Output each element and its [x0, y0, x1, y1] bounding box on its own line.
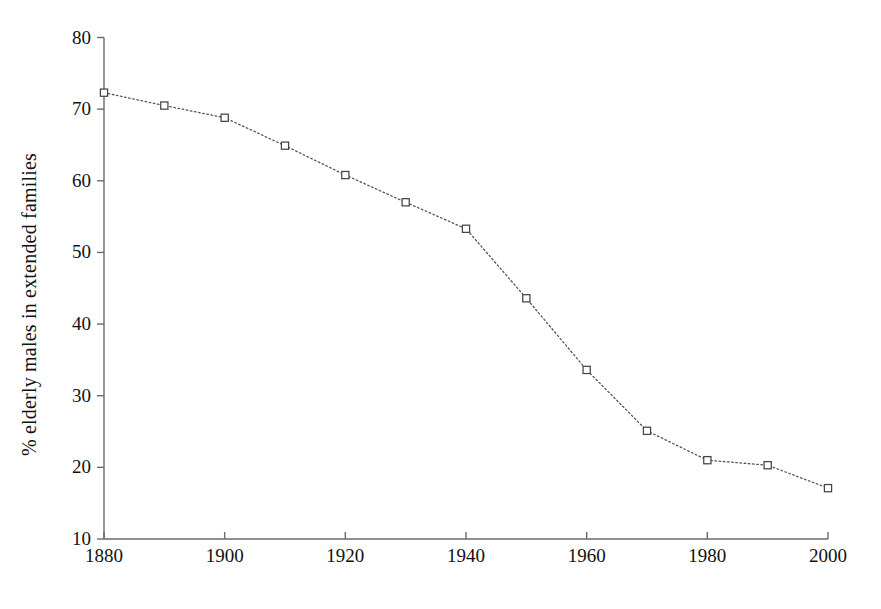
data-point-marker	[402, 199, 409, 206]
data-point-marker	[643, 427, 650, 434]
data-point-marker	[221, 114, 228, 121]
data-point-marker	[764, 462, 771, 469]
series-polyline	[104, 93, 828, 488]
data-point-marker	[824, 485, 831, 492]
data-point-marker	[161, 102, 168, 109]
axis-tickmarks	[97, 38, 828, 540]
data-series-line	[104, 93, 828, 488]
data-point-marker	[462, 225, 469, 232]
data-point-marker	[281, 142, 288, 149]
plot-area	[0, 0, 881, 609]
data-point-markers	[100, 89, 831, 492]
data-point-marker	[583, 366, 590, 373]
data-point-marker	[704, 457, 711, 464]
data-point-marker	[523, 295, 530, 302]
data-point-marker	[342, 171, 349, 178]
axis-lines	[104, 38, 828, 540]
data-point-marker	[100, 89, 107, 96]
chart-figure: % elderly males in extended families 102…	[0, 0, 881, 609]
